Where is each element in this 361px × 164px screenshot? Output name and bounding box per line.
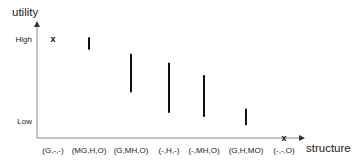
x-tick-label: (-,-,O) <box>273 146 295 155</box>
x-tick-label: (MG,H,O) <box>72 146 107 155</box>
x-tick-label: (G,H,MO) <box>229 146 264 155</box>
range-bar <box>130 54 132 93</box>
y-tick-labels: HighLow <box>16 35 33 126</box>
x-tick-label: (G,MH,O) <box>114 146 149 155</box>
x-axis-title: structure <box>306 142 351 154</box>
y-tick-label-high: High <box>16 35 32 44</box>
range-bar <box>203 75 205 117</box>
y-axis-title: utility <box>12 6 38 18</box>
y-tick-label-low: Low <box>17 117 32 126</box>
x-marker: x <box>50 34 55 44</box>
range-bar <box>88 37 90 49</box>
range-bar <box>168 63 170 113</box>
x-tick-labels: (G,-,-)(MG,H,O)(G,MH,O)(-,H,-)(-,MH,O)(G… <box>42 146 295 155</box>
axes <box>37 22 304 138</box>
range-bar <box>245 109 247 125</box>
x-tick-label: (G,-,-) <box>42 146 64 155</box>
x-tick-label: (-,H,-) <box>159 146 180 155</box>
range-bars <box>88 37 247 125</box>
utility-structure-chart: utility structure HighLow (G,-,-)(MG,H,O… <box>0 0 361 164</box>
x-tick-label: (-,MH,O) <box>188 146 219 155</box>
x-marker: x <box>281 133 286 143</box>
